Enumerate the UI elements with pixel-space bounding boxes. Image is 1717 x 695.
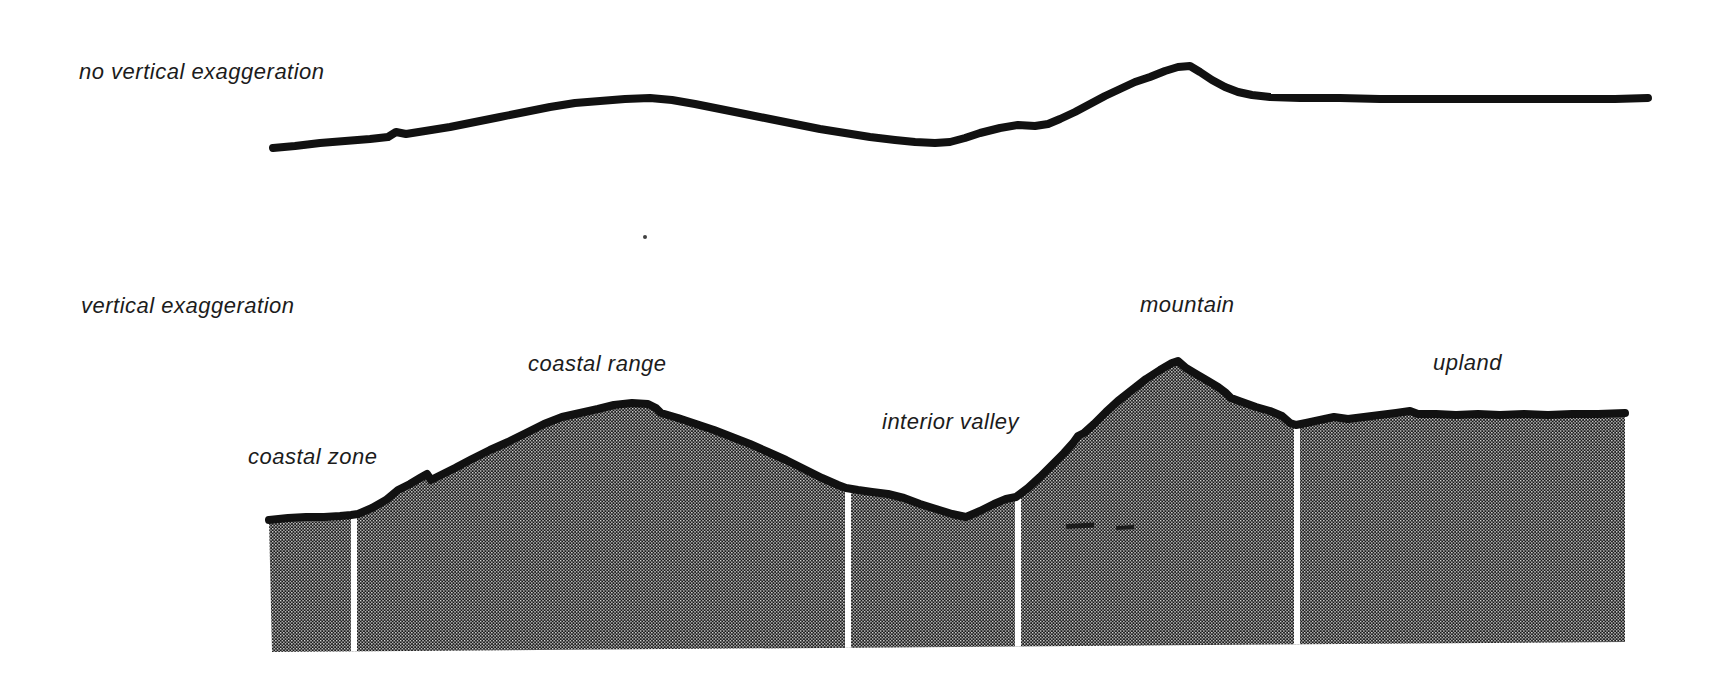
print-speck — [643, 235, 647, 239]
top-profile-line — [273, 66, 1648, 148]
speck — [643, 235, 647, 239]
zone-divider-gap — [1294, 420, 1300, 660]
zone-divider-gap — [1015, 493, 1021, 660]
terrain-profile-drawing — [0, 0, 1717, 695]
terrain-cross-section-fill — [269, 361, 1625, 652]
zone-divider-gap — [351, 510, 357, 660]
zone-divider-gap — [845, 484, 851, 660]
profile-diagram: no vertical exaggeration vertical exagge… — [0, 0, 1717, 695]
